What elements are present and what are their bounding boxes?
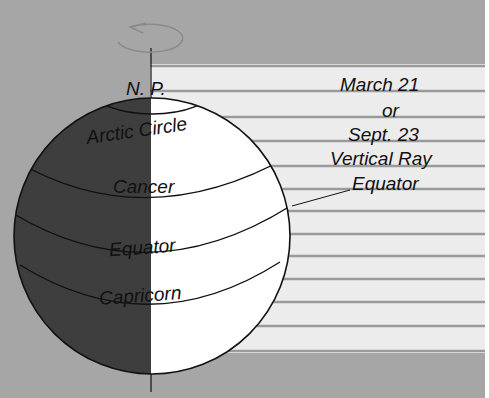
annotation-or: or xyxy=(382,100,399,122)
equinox-diagram: N. P. Arctic Circle Cancer Equator Capri… xyxy=(0,0,489,398)
diagram-graphics xyxy=(0,0,489,398)
annotation-vertical-ray: Vertical Ray xyxy=(330,148,432,170)
right-edge-strip xyxy=(485,0,489,398)
annotation-date-2: Sept. 23 xyxy=(348,124,419,146)
cancer-label: Cancer xyxy=(113,176,174,198)
annotation-equator: Equator xyxy=(352,173,419,195)
rotation-arrow-icon xyxy=(118,23,183,52)
north-pole-label: N. P. xyxy=(126,78,166,100)
annotation-date-1: March 21 xyxy=(340,74,419,96)
equator-label: Equator xyxy=(108,235,176,262)
